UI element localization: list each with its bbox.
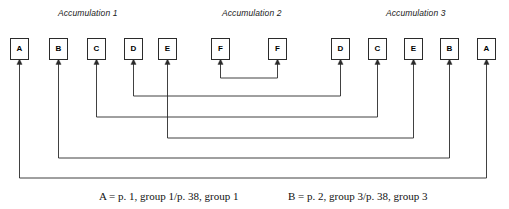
- c-to-c-connector-path: [97, 64, 378, 117]
- node-box-c-2[interactable]: C: [368, 38, 387, 60]
- accumulation-label-3: Accumulation 3: [386, 8, 446, 18]
- a-to-a-connector: [17, 59, 489, 178]
- d-to-d-connector-path: [134, 64, 341, 96]
- f-to-f-connector-path: [221, 64, 278, 78]
- node-box-f-1[interactable]: F: [211, 38, 230, 60]
- node-box-f-2[interactable]: F: [268, 38, 287, 60]
- caption-b: B = p. 2, group 3/p. 38, group 3: [288, 190, 427, 202]
- e-to-e-connector: [165, 59, 416, 138]
- e-to-e-connector-path: [168, 64, 414, 138]
- node-box-e-1[interactable]: E: [158, 38, 177, 60]
- b-to-b-connector-path: [59, 64, 450, 158]
- f-to-f-connector: [218, 59, 280, 78]
- node-box-a-2[interactable]: A: [477, 38, 496, 60]
- caption-a: A = p. 1, group 1/p. 38, group 1: [99, 190, 238, 202]
- b-to-b-connector: [56, 59, 452, 158]
- accumulation-label-2: Accumulation 2: [222, 8, 282, 18]
- node-box-c-1[interactable]: C: [87, 38, 106, 60]
- node-box-d-2[interactable]: D: [331, 38, 350, 60]
- node-box-b-2[interactable]: B: [440, 38, 459, 60]
- connector-lines: [0, 0, 509, 209]
- diagram-canvas: Accumulation 1 Accumulation 2 Accumulati…: [0, 0, 509, 209]
- d-to-d-connector: [131, 59, 343, 96]
- a-to-a-connector-path: [20, 64, 487, 178]
- node-box-d-1[interactable]: D: [124, 38, 143, 60]
- node-box-b-1[interactable]: B: [49, 38, 68, 60]
- node-box-a-1[interactable]: A: [10, 38, 29, 60]
- accumulation-label-1: Accumulation 1: [58, 8, 118, 18]
- c-to-c-connector: [94, 59, 380, 117]
- node-box-e-2[interactable]: E: [404, 38, 423, 60]
